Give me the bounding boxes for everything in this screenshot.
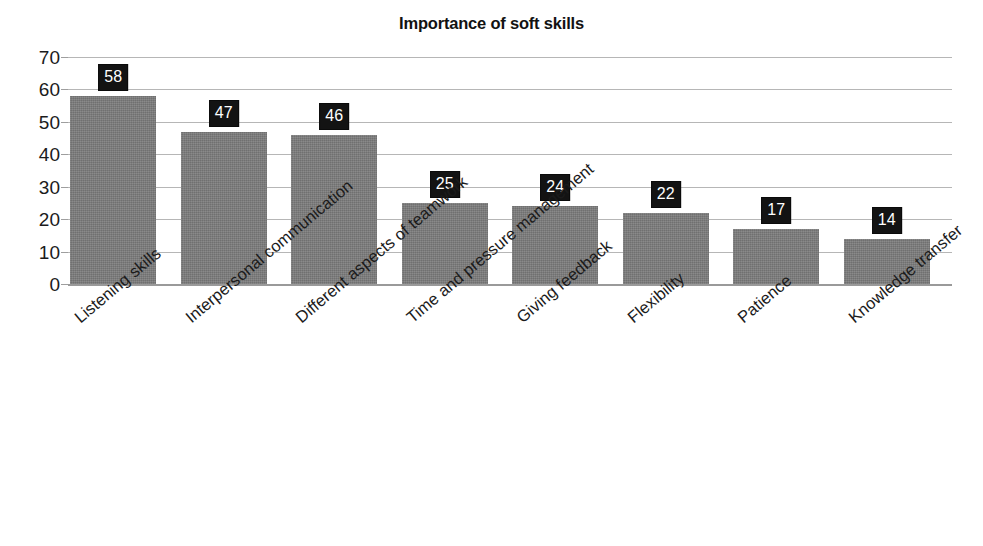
y-axis: 010203040506070 (0, 57, 60, 284)
y-axis-tick-label: 70 (8, 48, 60, 67)
gridline (68, 89, 952, 90)
y-axis-tick-label: 60 (8, 80, 60, 99)
y-axis-tick (61, 284, 68, 285)
bar-value-label: 46 (319, 103, 349, 130)
gridline (68, 57, 952, 58)
y-axis-tick (61, 252, 68, 253)
plot-area: 5847462524221714 (68, 57, 952, 284)
y-axis-tick-label: 40 (8, 145, 60, 164)
axis-baseline (68, 284, 952, 286)
y-axis-tick (61, 219, 68, 220)
y-axis-tick-label: 30 (8, 177, 60, 196)
y-axis-tick (61, 187, 68, 188)
y-axis-tick (61, 57, 68, 58)
chart-title: Importance of soft skills (0, 14, 983, 33)
bar-value-label: 14 (872, 207, 902, 234)
bar-value-label: 17 (761, 197, 791, 224)
bar-value-label: 22 (651, 181, 681, 208)
bar-chart: Importance of soft skills 01020304050607… (0, 0, 983, 546)
y-axis-tick-label: 50 (8, 112, 60, 131)
bar-value-label: 47 (209, 100, 239, 127)
y-axis-tick-label: 10 (8, 242, 60, 261)
y-axis-tick-label: 20 (8, 210, 60, 229)
y-axis-tick (61, 89, 68, 90)
y-axis-tick (61, 154, 68, 155)
y-axis-tick-label: 0 (8, 275, 60, 294)
bar-value-label: 58 (98, 64, 128, 91)
bar[interactable] (623, 213, 709, 284)
gridline (68, 122, 952, 123)
y-axis-tick (61, 122, 68, 123)
